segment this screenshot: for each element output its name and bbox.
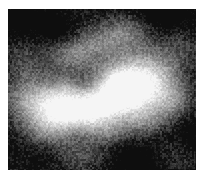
figure-root [0, 0, 201, 177]
noise-texture-panel [8, 9, 196, 170]
noise-canvas [8, 9, 196, 170]
